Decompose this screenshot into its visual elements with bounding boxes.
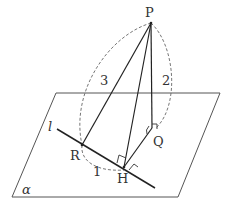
segment-PQ [151, 23, 152, 128]
label-Q: Q [153, 134, 164, 149]
label-length-PQ: 2 [162, 73, 170, 88]
dashed-arc-RH-length-1 [82, 145, 124, 170]
segment-PH [124, 23, 151, 167]
plane-alpha [12, 93, 220, 197]
segment-PR [82, 23, 151, 145]
point-P [150, 22, 153, 25]
right-angle-mark-Q [152, 124, 157, 129]
point-R [81, 144, 84, 147]
label-line-l: l [48, 119, 52, 134]
right-angle-mark-H-right [129, 164, 138, 170]
geometry-figure: P R H Q 3 2 1 l α [0, 0, 229, 212]
point-H [123, 166, 126, 169]
label-length-RH: 1 [93, 164, 101, 179]
label-length-PR: 3 [100, 73, 108, 88]
label-P: P [145, 5, 154, 20]
label-H: H [117, 171, 128, 186]
label-R: R [70, 148, 81, 163]
label-plane-alpha: α [22, 182, 31, 197]
diagram-canvas: P R H Q 3 2 1 l α [0, 0, 229, 212]
